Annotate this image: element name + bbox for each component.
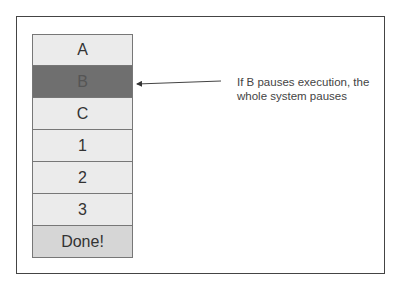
annotation-line-2: whole system pauses (237, 89, 377, 103)
annotation-line-1: If B pauses execution, the (237, 75, 377, 89)
annotation-text: If B pauses execution, the whole system … (237, 75, 377, 103)
arrow-icon (0, 0, 400, 291)
